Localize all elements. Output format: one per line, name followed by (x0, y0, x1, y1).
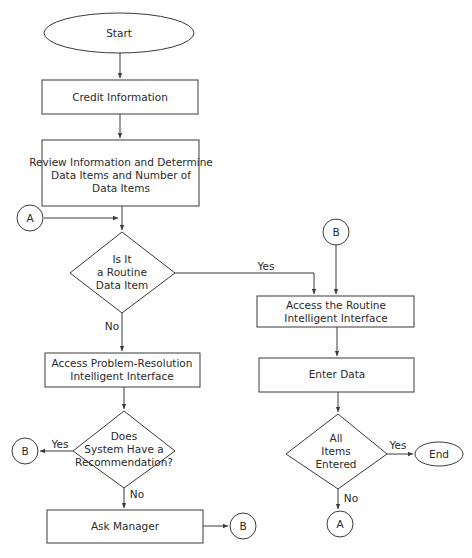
decision-recommend-line-1: Does (111, 430, 137, 442)
decision-entered-line-1: All (329, 432, 342, 444)
node-enter-data-label: Enter Data (309, 368, 366, 380)
decision-entered-line-2: Items (321, 445, 350, 457)
connector-a-in-label: A (26, 212, 34, 224)
node-enter-data: Enter Data (259, 358, 414, 392)
decision-recommend-line-3: Recommendation? (75, 456, 173, 468)
node-routine-interface-line-2: Intelligent Interface (284, 312, 387, 324)
node-routine-interface: Access the Routine Intelligent Interface (257, 296, 414, 327)
connector-b-recommend-yes: B (12, 438, 38, 464)
connector-b-in-label: B (332, 226, 339, 238)
decision-system-recommendation: Does System Have a Recommendation? (73, 411, 175, 488)
connector-b-manager-label: B (239, 520, 246, 532)
node-end-label: End (429, 448, 449, 460)
node-credit-information-label: Credit Information (72, 91, 168, 103)
edge-routine-yes (175, 273, 314, 294)
node-end: End (415, 442, 463, 466)
node-review-line-3: Data Items (92, 182, 150, 194)
edge-label-recommend-yes: Yes (51, 438, 69, 450)
edge-label-routine-yes: Yes (257, 260, 275, 272)
connector-a-out-label: A (336, 518, 344, 530)
node-ask-manager: Ask Manager (47, 510, 203, 543)
node-start: Start (44, 13, 194, 53)
node-ask-manager-label: Ask Manager (91, 520, 160, 532)
decision-routine-line-3: Data Item (96, 279, 148, 291)
edge-label-entered-no: No (344, 492, 358, 504)
node-review-line-2: Data Items and Number of (51, 169, 191, 181)
node-problem-resolution: Access Problem-Resolution Intelligent In… (45, 353, 200, 387)
node-problem-resolution-line-1: Access Problem-Resolution (52, 357, 193, 369)
decision-routine-line-2: a Routine (97, 266, 147, 278)
connector-a-in: A (17, 205, 43, 231)
edge-label-recommend-no: No (130, 488, 144, 500)
node-review-information: Review Information and Determine Data It… (29, 140, 213, 206)
flowchart-canvas: Yes No Yes No Yes No Start Credit Inform… (0, 0, 472, 558)
decision-routine-line-1: Is It (112, 253, 131, 265)
connector-b-recommend-yes-label: B (21, 445, 28, 457)
node-review-line-1: Review Information and Determine (29, 156, 213, 168)
edge-label-routine-no: No (105, 320, 119, 332)
connector-a-out: A (327, 511, 353, 537)
edge-label-entered-yes: Yes (389, 439, 407, 451)
decision-entered-line-3: Entered (315, 458, 356, 470)
node-credit-information: Credit Information (42, 80, 198, 114)
node-start-label: Start (106, 27, 132, 39)
node-routine-interface-line-1: Access the Routine (286, 299, 386, 311)
connector-b-manager: B (230, 513, 256, 539)
decision-routine-data-item: Is It a Routine Data Item (70, 232, 175, 313)
decision-recommend-line-2: System Have a (84, 443, 163, 455)
connector-b-in: B (323, 219, 349, 245)
decision-all-items-entered: All Items Entered (286, 414, 387, 489)
node-problem-resolution-line-2: Intelligent Interface (70, 370, 173, 382)
